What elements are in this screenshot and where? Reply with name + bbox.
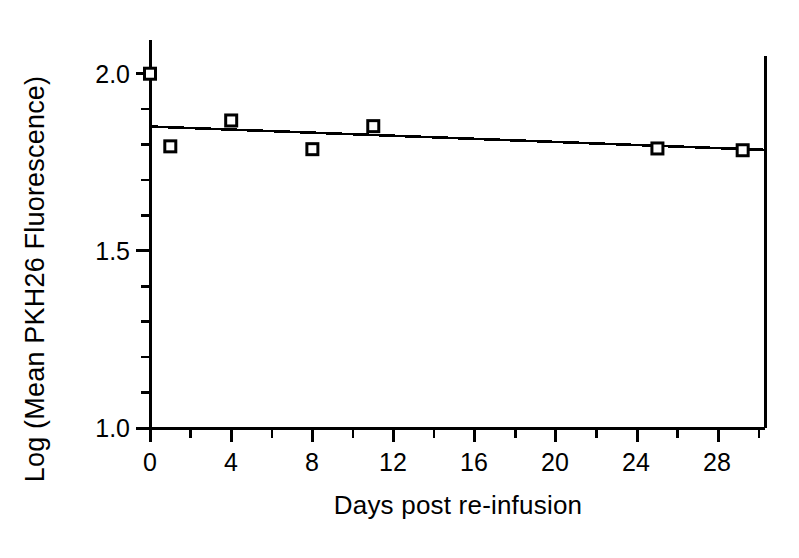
data-point-marker xyxy=(307,144,318,155)
figure-chart: Log (Mean PKH26 Fluorescence) Days post … xyxy=(0,0,799,558)
data-point-marker xyxy=(226,115,237,126)
data-point-marker xyxy=(652,143,663,154)
data-point-marker xyxy=(145,68,156,79)
axes xyxy=(136,40,765,442)
data-point-marker xyxy=(165,141,176,152)
data-point-marker xyxy=(737,145,748,156)
data-point-marker xyxy=(368,121,379,132)
data-points xyxy=(145,68,749,156)
trendline xyxy=(150,127,765,150)
plot-area xyxy=(0,0,799,558)
regression-line xyxy=(150,127,765,150)
